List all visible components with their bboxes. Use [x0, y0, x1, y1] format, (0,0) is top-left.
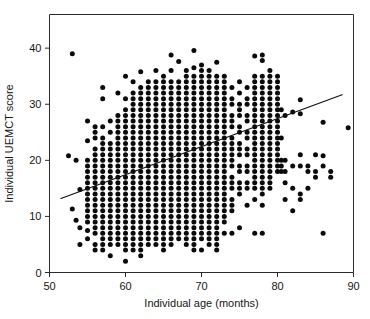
data-point: [207, 74, 212, 79]
data-point: [153, 91, 158, 96]
data-point: [184, 169, 189, 174]
data-point: [191, 231, 196, 236]
data-point: [123, 124, 128, 129]
data-point: [153, 220, 158, 225]
data-point: [176, 102, 181, 107]
data-point: [161, 186, 166, 191]
data-point: [245, 96, 250, 101]
data-point: [100, 135, 105, 140]
data-point: [245, 102, 250, 107]
data-point: [222, 158, 227, 163]
data-point: [252, 79, 257, 84]
data-point: [222, 130, 227, 135]
data-point: [108, 225, 113, 230]
data-point: [252, 169, 257, 174]
data-point: [214, 208, 219, 213]
data-point: [184, 96, 189, 101]
data-point: [115, 130, 120, 135]
data-point: [176, 180, 181, 185]
data-point: [199, 152, 204, 157]
data-point: [214, 214, 219, 219]
data-point: [176, 231, 181, 236]
data-point: [85, 169, 90, 174]
data-point: [245, 135, 250, 140]
data-point: [108, 147, 113, 152]
data-point: [267, 163, 272, 168]
data-point: [191, 79, 196, 84]
data-point: [131, 203, 136, 208]
data-point: [153, 242, 158, 247]
data-point: [153, 214, 158, 219]
data-point: [237, 225, 242, 230]
data-point: [207, 135, 212, 140]
data-point: [100, 248, 105, 253]
data-point: [169, 242, 174, 247]
data-point: [260, 147, 265, 152]
data-point: [245, 85, 250, 90]
data-point: [146, 225, 151, 230]
data-point: [176, 135, 181, 140]
data-point: [252, 130, 257, 135]
data-point: [123, 220, 128, 225]
data-point: [108, 203, 113, 208]
data-point: [131, 197, 136, 202]
data-point: [115, 242, 120, 247]
data-point: [252, 91, 257, 96]
data-point: [176, 85, 181, 90]
data-point: [85, 203, 90, 208]
data-point: [260, 52, 265, 57]
data-point: [283, 197, 288, 202]
data-point: [176, 220, 181, 225]
data-point: [229, 124, 234, 129]
data-point: [214, 186, 219, 191]
data-point: [176, 158, 181, 163]
data-point: [85, 180, 90, 185]
data-point: [207, 68, 212, 73]
data-point: [176, 236, 181, 241]
data-point: [93, 231, 98, 236]
data-point: [260, 102, 265, 107]
data-point: [153, 152, 158, 157]
data-point: [191, 158, 196, 163]
data-point: [161, 79, 166, 84]
data-point: [222, 191, 227, 196]
data-point: [237, 186, 242, 191]
data-point: [214, 102, 219, 107]
data-point: [115, 220, 120, 225]
data-point: [131, 96, 136, 101]
data-point: [176, 96, 181, 101]
data-point: [199, 203, 204, 208]
data-point: [222, 152, 227, 157]
data-point: [123, 113, 128, 118]
data-point: [100, 214, 105, 219]
data-point: [108, 191, 113, 196]
data-point: [108, 231, 113, 236]
data-point: [214, 96, 219, 101]
data-point: [131, 119, 136, 124]
data-point: [222, 124, 227, 129]
data-point: [169, 225, 174, 230]
y-tick-label: 20: [29, 154, 41, 166]
data-point: [100, 158, 105, 163]
data-point: [214, 130, 219, 135]
data-point: [199, 141, 204, 146]
data-point: [176, 79, 181, 84]
data-point: [207, 107, 212, 112]
data-point: [131, 79, 136, 84]
data-point: [138, 208, 143, 213]
data-point: [298, 111, 303, 116]
data-point: [153, 96, 158, 101]
data-point: [237, 180, 242, 185]
data-point: [93, 225, 98, 230]
data-point: [138, 248, 143, 253]
data-point: [346, 125, 351, 130]
data-point: [191, 236, 196, 241]
data-point: [191, 91, 196, 96]
data-point: [176, 186, 181, 191]
data-point: [93, 130, 98, 135]
data-point: [260, 91, 265, 96]
data-point: [131, 107, 136, 112]
data-point: [146, 169, 151, 174]
data-point: [191, 175, 196, 180]
data-point: [123, 130, 128, 135]
